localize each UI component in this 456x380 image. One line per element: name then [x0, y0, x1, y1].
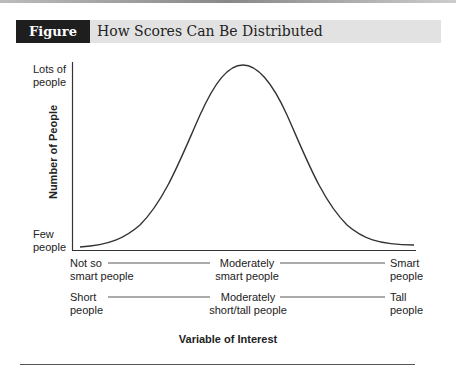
scale1-middle-line1: Moderately	[214, 257, 280, 270]
scale1-right-line1: Smart	[390, 257, 423, 270]
scale2-left-label: Short people	[70, 291, 103, 317]
scale2-right-line1: Tall	[390, 291, 423, 304]
y-axis-title: Number of People	[47, 97, 59, 207]
y-top-line1: Lots of	[33, 63, 66, 76]
y-bottom-line2: people	[33, 241, 66, 254]
y-top-line2: people	[33, 76, 66, 89]
scale2-middle-label: Moderately short/tall people	[206, 291, 290, 317]
normal-curve	[80, 65, 414, 247]
x-axis-title: Variable of Interest	[0, 333, 456, 345]
bottom-rule	[20, 364, 415, 365]
bell-curve-chart	[0, 0, 456, 380]
scale2-middle-line1: Moderately	[206, 291, 290, 304]
scale1-right-label: Smart people	[390, 257, 423, 283]
scale1-left-line2: smart people	[70, 270, 134, 283]
y-bottom-line1: Few	[33, 228, 66, 241]
scale2-middle-line2: short/tall people	[206, 304, 290, 317]
scale1-middle-label: Moderately smart people	[214, 257, 280, 283]
scale2-left-line1: Short	[70, 291, 103, 304]
scale2-right-label: Tall people	[390, 291, 423, 317]
y-top-label: Lots of people	[33, 63, 66, 89]
y-bottom-label: Few people	[33, 228, 66, 254]
scale2-left-line2: people	[70, 304, 103, 317]
scale1-middle-line2: smart people	[214, 270, 280, 283]
scale1-left-line1: Not so	[70, 257, 134, 270]
scale2-right-line2: people	[390, 304, 423, 317]
scale1-left-label: Not so smart people	[70, 257, 134, 283]
scale1-right-line2: people	[390, 270, 423, 283]
